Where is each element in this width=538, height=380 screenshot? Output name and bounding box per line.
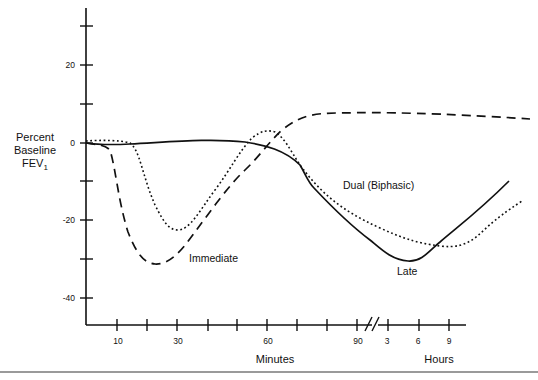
annotation-immediate: Immediate <box>189 252 238 264</box>
annotation-dual: Dual (Biphasic) <box>343 179 414 191</box>
x-axis-title-hours: Hours <box>424 353 454 365</box>
y-tick-label: -20 <box>63 215 76 225</box>
y-axis-title-line-1: Percent <box>4 131 66 144</box>
y-tick-label: 20 <box>66 60 76 70</box>
x-tick-label: 9 <box>447 336 452 346</box>
bottom-divider <box>0 371 538 373</box>
y-axis-title-line-3: FEV1 <box>4 157 66 174</box>
x-tick-label: 30 <box>173 336 183 346</box>
y-tick-label: 0 <box>70 138 75 148</box>
y-axis-title-fev: FEV <box>22 157 43 169</box>
axis-break-icon <box>365 317 379 331</box>
series-late-line <box>86 140 509 261</box>
x-tick-label: 10 <box>113 336 123 346</box>
fev1-response-chart: 20 0 -20 -40 10 30 60 90 3 6 9 Minutes H… <box>0 0 538 380</box>
x-tick-label: 60 <box>263 336 273 346</box>
x-tick-label: 3 <box>385 336 390 346</box>
x-axis-title-minutes: Minutes <box>256 353 295 365</box>
series-immediate-line <box>86 113 530 264</box>
y-axis-title-subscript: 1 <box>43 163 47 172</box>
y-axis-title-line-2: Baseline <box>4 144 66 157</box>
x-tick-label: 6 <box>416 336 421 346</box>
x-tick-label: 90 <box>353 336 363 346</box>
annotation-late: Late <box>397 265 418 277</box>
y-axis-title: Percent Baseline FEV1 <box>4 131 66 174</box>
y-tick-label: -40 <box>63 293 76 303</box>
